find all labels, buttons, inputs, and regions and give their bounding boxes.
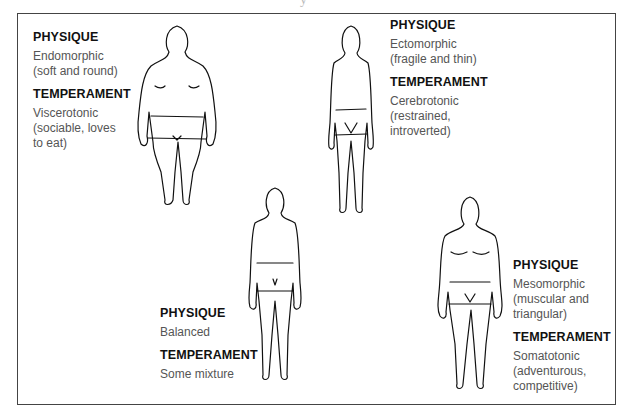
temperament-heading: TEMPERAMENT [160, 348, 258, 362]
physique-heading: PHYSIQUE [33, 30, 131, 44]
temperament-description: Somatotonic (adventurous, competitive) [513, 349, 611, 394]
mesomorph-figure-icon [437, 194, 503, 394]
physique-description: Balanced [160, 325, 258, 340]
temperament-heading: TEMPERAMENT [390, 75, 488, 89]
temperament-description: Viscerotonic (sociable, loves to eat) [33, 106, 131, 151]
balanced-text: PHYSIQUE Balanced TEMPERAMENT Some mixtu… [160, 306, 258, 382]
physique-heading: PHYSIQUE [160, 306, 258, 320]
physique-description: Mesomorphic (muscular and triangular) [513, 277, 611, 322]
physique-description: Ectomorphic (fragile and thin) [390, 37, 488, 67]
temperament-description: Some mixture [160, 367, 258, 382]
endomorph-figure-icon [137, 22, 217, 212]
physique-description: Endomorphic (soft and round) [33, 49, 131, 79]
balanced-figure-icon [247, 185, 303, 385]
temperament-description: Cerebrotonic (restrained, introverted) [390, 94, 488, 139]
physique-heading: PHYSIQUE [390, 18, 488, 32]
ectomorph-text: PHYSIQUE Ectomorphic (fragile and thin) … [390, 18, 488, 139]
temperament-heading: TEMPERAMENT [33, 87, 131, 101]
endomorph-text: PHYSIQUE Endomorphic (soft and round) TE… [33, 30, 131, 151]
physique-heading: PHYSIQUE [513, 258, 611, 272]
temperament-heading: TEMPERAMENT [513, 330, 611, 344]
cropped-caption-fragment: y [300, 0, 307, 8]
mesomorph-text: PHYSIQUE Mesomorphic (muscular and trian… [513, 258, 611, 394]
ectomorph-figure-icon [326, 23, 376, 218]
